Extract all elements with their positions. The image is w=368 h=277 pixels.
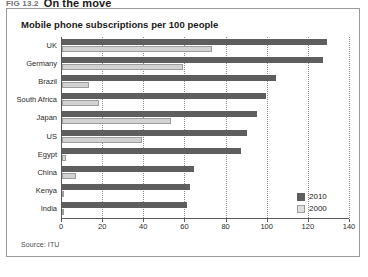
bar-2000	[62, 209, 64, 215]
bar-group: UK	[62, 39, 349, 57]
tick-label-40: 40	[139, 222, 147, 231]
tick-label-120: 120	[302, 222, 315, 231]
legend-item-2000[interactable]: 2000	[297, 204, 327, 213]
x-axis-line	[61, 218, 349, 219]
bar-group: Japan	[62, 111, 349, 129]
bar-2000	[62, 137, 142, 143]
bar-2010	[62, 111, 257, 117]
category-label: Kenya	[36, 184, 57, 197]
bar-group: Egypt	[62, 148, 349, 166]
bar-2000	[62, 118, 171, 124]
legend-swatch-icon	[297, 193, 305, 201]
gridline-140	[349, 37, 350, 218]
category-label: Japan	[37, 111, 57, 124]
bar-group: South Africa	[62, 93, 349, 111]
bar-2010	[62, 184, 190, 190]
chart-legend: 20102000	[297, 192, 327, 213]
legend-label: 2000	[309, 204, 327, 213]
chart-panel: Mobile phone subscriptions per 100 peopl…	[6, 8, 360, 257]
tick-label-60: 60	[180, 222, 188, 231]
tick-label-80: 80	[221, 222, 229, 231]
bar-2010	[62, 202, 187, 208]
bar-2010	[62, 57, 323, 63]
bar-group: US	[62, 130, 349, 148]
bar-2010	[62, 93, 266, 99]
bar-2000	[62, 191, 64, 197]
category-label: Brazil	[38, 75, 57, 88]
legend-label: 2010	[309, 192, 327, 201]
bar-2000	[62, 155, 66, 161]
bar-group: China	[62, 166, 349, 184]
plot-area: UKGermanyBrazilSouth AfricaJapanUSEgyptC…	[61, 37, 349, 218]
tick-label-20: 20	[98, 222, 106, 231]
bar-2010	[62, 166, 194, 172]
tick-label-140: 140	[343, 222, 356, 231]
bar-2000	[62, 173, 76, 179]
chart-title: Mobile phone subscriptions per 100 peopl…	[21, 19, 218, 30]
legend-item-2010[interactable]: 2010	[297, 192, 327, 201]
bar-2010	[62, 148, 241, 154]
figure-number: FIG 13.2	[6, 0, 39, 8]
category-label: UK	[47, 39, 57, 52]
bar-2000	[62, 46, 212, 52]
bar-2000	[62, 100, 99, 106]
category-label: India	[41, 202, 57, 215]
category-label: Egypt	[38, 148, 57, 161]
bar-2000	[62, 82, 89, 88]
bar-group: Germany	[62, 57, 349, 75]
bar-group: Brazil	[62, 75, 349, 93]
bar-2010	[62, 39, 327, 45]
legend-swatch-icon	[297, 205, 305, 213]
category-label: China	[37, 166, 57, 179]
tick-label-0: 0	[59, 222, 63, 231]
bar-2010	[62, 75, 276, 81]
bar-2000	[62, 64, 183, 70]
category-label: South Africa	[17, 93, 57, 106]
bars-layer: UKGermanyBrazilSouth AfricaJapanUSEgyptC…	[61, 37, 349, 218]
category-label: Germany	[26, 57, 57, 70]
source-note: Source: ITU	[21, 241, 59, 248]
tick-label-100: 100	[260, 222, 273, 231]
category-label: US	[47, 130, 57, 143]
bar-2010	[62, 130, 247, 136]
